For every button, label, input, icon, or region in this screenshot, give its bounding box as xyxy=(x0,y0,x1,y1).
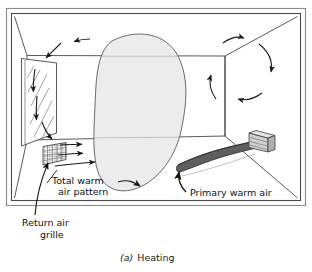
register-side xyxy=(268,136,275,153)
total-warm-air-label-line1: Total warm xyxy=(51,175,104,186)
figure-container: Total warm air pattern Primary warm air … xyxy=(0,0,312,272)
caption-text: Heating xyxy=(137,252,174,263)
heating-airflow-diagram: Total warm air pattern Primary warm air … xyxy=(0,0,312,272)
primary-warm-air-label: Primary warm air xyxy=(190,187,272,198)
window-with-glass-hatching xyxy=(22,59,57,147)
figure-caption: (a)Heating xyxy=(120,252,174,263)
return-air-grille-label-line2: grille xyxy=(40,229,64,240)
return-air-grille-label-line1: Return air xyxy=(22,217,69,228)
caption-prefix: (a) xyxy=(120,252,133,263)
total-warm-air-label-line2: air pattern xyxy=(58,186,108,197)
